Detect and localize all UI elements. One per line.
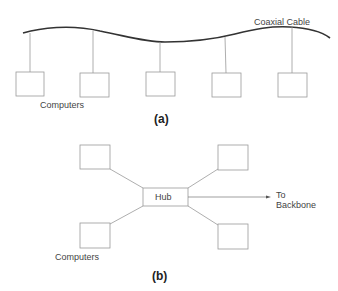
caption-a: (a) — [154, 112, 169, 126]
computer-box — [16, 72, 44, 96]
coaxial-cable — [23, 27, 330, 42]
computer-box — [218, 224, 248, 249]
star-diagram — [80, 145, 271, 249]
computer-box — [212, 73, 241, 97]
caption-b: (b) — [152, 269, 167, 283]
coaxial-cable-label: Coaxial Cable — [254, 17, 310, 27]
computer-box — [80, 73, 109, 97]
computer-box — [278, 73, 307, 97]
bus-diagram — [16, 27, 330, 97]
network-topology-figure: Coaxial Cable Computers (a) Hub To Backb… — [0, 0, 338, 291]
drop-line-4 — [225, 37, 226, 73]
link-br — [188, 206, 218, 225]
computer-box — [146, 72, 175, 96]
computer-box — [218, 145, 248, 170]
backbone-label-line1: To — [276, 190, 286, 200]
link-bl — [110, 206, 143, 224]
computer-box — [80, 223, 110, 248]
computer-box — [80, 145, 110, 169]
link-tl — [110, 169, 143, 188]
diagram-graphics — [0, 0, 338, 291]
hub-label: Hub — [155, 192, 172, 202]
computers-label-a: Computers — [40, 100, 84, 110]
link-tr — [188, 169, 218, 188]
computers-label-b: Computers — [55, 252, 99, 262]
arrowhead-icon — [266, 196, 271, 199]
backbone-label-line2: Backbone — [276, 200, 316, 210]
